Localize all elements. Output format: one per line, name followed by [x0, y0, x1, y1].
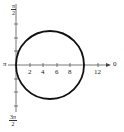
- pi-label: π: [3, 61, 7, 68]
- arrow-icon: [106, 63, 111, 67]
- top-angle-label: π 2: [11, 3, 16, 16]
- tick-label-8: 8: [68, 69, 72, 76]
- tick-label-6: 6: [55, 69, 59, 76]
- tick-label-4: 4: [41, 69, 45, 76]
- tick-label-2: 2: [28, 69, 32, 76]
- bottom-angle-label: 3π 2: [9, 114, 17, 127]
- zero-label: 0: [113, 61, 117, 68]
- polar-plot: [0, 0, 124, 132]
- tick-label-12: 12: [94, 69, 101, 76]
- polar-graph: π 0 2 4 6 8 12 π 2 3π 2: [0, 0, 124, 132]
